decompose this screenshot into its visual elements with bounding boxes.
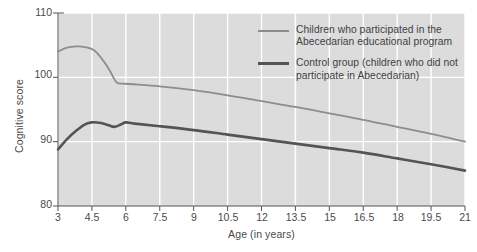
chart-legend: Children who participated in the Abeceda… bbox=[258, 24, 473, 91]
y-tick-label-80: 80 bbox=[18, 199, 52, 210]
y-tick-label-90: 90 bbox=[18, 134, 52, 145]
control-line-swatch-icon bbox=[258, 62, 289, 65]
legend-label-control: Control group (children who did not part… bbox=[296, 57, 473, 81]
legend-label-control-line2: participate in Abecedarian) bbox=[296, 70, 473, 82]
cognitive-score-line-chart: Cognitive score Age (in years) 110 100 9… bbox=[0, 0, 477, 252]
legend-label-treatment: Children who participated in the Abeceda… bbox=[296, 24, 473, 48]
legend-entry-treatment: Children who participated in the Abeceda… bbox=[258, 24, 473, 48]
legend-entry-control: Control group (children who did not part… bbox=[258, 57, 473, 81]
treatment-line-swatch-icon bbox=[258, 30, 289, 32]
y-tick-label-100: 100 bbox=[18, 69, 52, 80]
legend-label-treatment-line2: Abecedarian educational program bbox=[296, 36, 473, 48]
y-tick-label-110: 110 bbox=[18, 7, 52, 18]
legend-label-treatment-line1: Children who participated in the bbox=[296, 24, 473, 36]
x-tick-label-21: 21 bbox=[445, 212, 477, 223]
x-axis-title: Age (in years) bbox=[58, 228, 465, 240]
legend-label-control-line1: Control group (children who did not bbox=[296, 57, 473, 69]
